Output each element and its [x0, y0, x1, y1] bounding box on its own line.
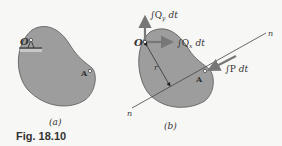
point-a-marker-b	[203, 69, 206, 72]
point-a-label-b: A	[195, 74, 203, 84]
line-n-bottom-label: n	[127, 109, 132, 118]
point-a-marker	[88, 69, 91, 72]
point-o-label-a: O	[20, 36, 29, 47]
impulse-p-label: ∫Pdt	[225, 64, 249, 74]
figure-caption: Fig. 18.10	[16, 130, 66, 142]
panel-a: O A (a)	[18, 26, 95, 127]
panel-b: n n ∫Qydt ∫Qxdt O r ∫Pdt A (b)	[127, 10, 273, 131]
point-a-label-a: A	[80, 68, 88, 78]
figure-canvas: O A (a) n n ∫Qydt ∫Qxdt O r ∫Pdt A (	[0, 0, 282, 146]
panel-b-label: (b)	[164, 121, 177, 131]
rigid-body-a	[18, 26, 95, 105]
impulse-qy-label: ∫Qydt	[150, 10, 178, 22]
point-o-label-b: O	[134, 37, 143, 48]
impulse-qx-label: ∫Qxdt	[177, 38, 205, 49]
panel-a-label: (a)	[49, 117, 62, 127]
point-o-marker-b	[143, 40, 146, 43]
line-n-top-label: n	[268, 29, 273, 38]
